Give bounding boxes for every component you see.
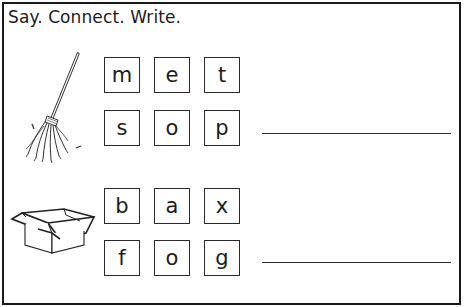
letter-tile[interactable]: e [154, 57, 190, 93]
letter-tile[interactable]: p [204, 110, 240, 146]
letter-tile[interactable]: s [104, 110, 140, 146]
letter-tile[interactable]: x [204, 188, 240, 224]
letter-tile[interactable]: b [104, 188, 140, 224]
letter-tile[interactable]: t [204, 57, 240, 93]
letter-tile[interactable]: f [104, 240, 140, 276]
answer-line-box[interactable] [262, 262, 451, 263]
letter-tile[interactable]: o [154, 240, 190, 276]
box-icon [8, 205, 96, 257]
letter-tile[interactable]: o [154, 110, 190, 146]
letter-tile[interactable]: a [154, 188, 190, 224]
letter-tile[interactable]: g [204, 240, 240, 276]
answer-line-mop[interactable] [262, 133, 451, 134]
mop-icon [18, 50, 88, 165]
letter-tile[interactable]: m [104, 57, 140, 93]
instruction-title: Say. Connect. Write. [8, 7, 181, 27]
